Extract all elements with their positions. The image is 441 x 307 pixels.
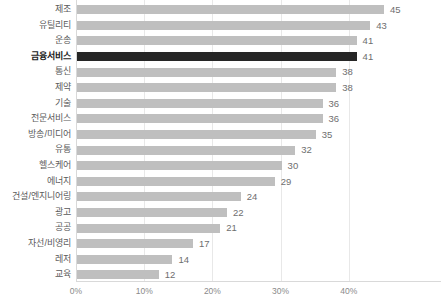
bar-row: 전문서비스36 (0, 113, 441, 129)
bar-row: 헬스케어30 (0, 160, 441, 176)
category-label: 헬스케어 (0, 160, 71, 171)
bar (77, 255, 172, 264)
category-label: 기술 (0, 98, 71, 109)
bar-highlighted (77, 52, 357, 61)
bar (77, 83, 336, 92)
bar (77, 130, 316, 139)
bar-value-label: 35 (322, 129, 333, 140)
bar-value-label: 38 (342, 82, 353, 93)
bar (77, 68, 336, 77)
bar-value-label: 21 (226, 222, 237, 233)
bar-row: 제조45 (0, 4, 441, 20)
bar (77, 146, 295, 155)
bar (77, 208, 227, 217)
category-label: 제조 (0, 4, 71, 15)
bar (77, 36, 357, 45)
category-label: 금융서비스 (0, 51, 71, 62)
bar-row: 운송41 (0, 35, 441, 51)
x-axis-tick-label: 40% (340, 286, 357, 296)
bar-row: 방송/미디어35 (0, 129, 441, 145)
bar-value-label: 32 (301, 144, 312, 155)
x-axis-tick-label: 20% (204, 286, 221, 296)
bar (77, 21, 370, 30)
bar-row: 통신38 (0, 66, 441, 82)
bar (77, 114, 323, 123)
bar-value-label: 30 (288, 160, 299, 171)
bar-value-label: 29 (281, 176, 292, 187)
bar-value-label: 38 (342, 66, 353, 77)
bar (77, 270, 159, 279)
bar-row: 유통32 (0, 144, 441, 160)
bar (77, 177, 275, 186)
category-label: 건설/엔지니어링 (0, 191, 71, 202)
bar-value-label: 12 (165, 269, 176, 280)
bar (77, 99, 323, 108)
bar-value-label: 24 (247, 191, 258, 202)
bar-row: 자선/비영리17 (0, 238, 441, 254)
bar-row: 금융서비스41 (0, 51, 441, 67)
bar-row: 건설/엔지니어링24 (0, 191, 441, 207)
category-label: 광고 (0, 207, 71, 218)
x-axis-tick-label: 10% (136, 286, 153, 296)
x-axis-tick-label: 30% (272, 286, 289, 296)
bar-row: 교육12 (0, 269, 441, 285)
bar-value-label: 41 (363, 51, 374, 62)
bar (77, 239, 193, 248)
category-label: 자선/비영리 (0, 238, 71, 249)
bar-row: 기술36 (0, 98, 441, 114)
x-axis-tick-label: 0% (70, 286, 82, 296)
category-label: 유틸리티 (0, 20, 71, 31)
bar-value-label: 43 (376, 20, 387, 31)
bar-value-label: 17 (199, 238, 210, 249)
bar-value-label: 41 (363, 35, 374, 46)
bar-row: 유틸리티43 (0, 20, 441, 36)
bar-chart: 제조45유틸리티43운송41금융서비스41통신38제약38기술36전문서비스36… (0, 0, 441, 307)
bar-value-label: 45 (390, 4, 401, 15)
category-label: 레저 (0, 254, 71, 265)
bar (77, 192, 241, 201)
category-label: 공공 (0, 222, 71, 233)
category-label: 교육 (0, 269, 71, 280)
bar-value-label: 14 (178, 254, 189, 265)
category-label: 통신 (0, 66, 71, 77)
category-label: 에너지 (0, 176, 71, 187)
bar (77, 161, 282, 170)
bar-row: 제약38 (0, 82, 441, 98)
bar-row: 광고22 (0, 207, 441, 223)
bar-value-label: 22 (233, 207, 244, 218)
bar-value-label: 36 (329, 98, 340, 109)
bar (77, 224, 220, 233)
category-label: 전문서비스 (0, 113, 71, 124)
bar (77, 5, 384, 14)
category-label: 제약 (0, 82, 71, 93)
category-label: 운송 (0, 35, 71, 46)
bar-value-label: 36 (329, 113, 340, 124)
bar-row: 에너지29 (0, 176, 441, 192)
bar-row: 레저14 (0, 254, 441, 270)
bar-row: 공공21 (0, 222, 441, 238)
category-label: 방송/미디어 (0, 129, 71, 140)
category-label: 유통 (0, 144, 71, 155)
